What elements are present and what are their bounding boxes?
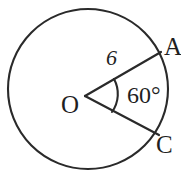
label-angle-measure: 60°: [127, 83, 161, 107]
geometry-figure: O A C 60° 6: [0, 0, 181, 178]
label-center-point-o: O: [61, 92, 79, 117]
label-point-c: C: [156, 132, 173, 157]
label-radius-length: 6: [106, 47, 117, 69]
angle-arc-marker: [112, 79, 118, 112]
label-point-a: A: [164, 34, 181, 59]
